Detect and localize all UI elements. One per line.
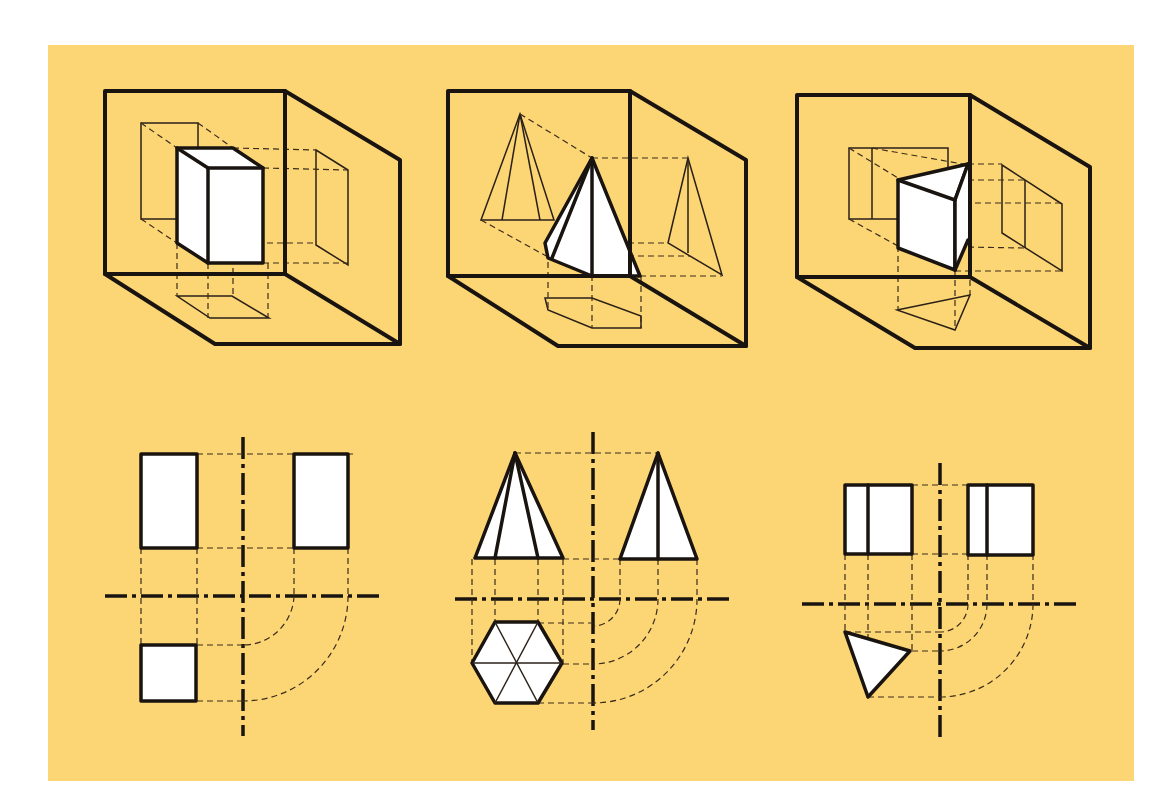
top-view-square bbox=[141, 645, 196, 701]
top-projection bbox=[545, 298, 641, 328]
floor bbox=[448, 276, 746, 346]
side-view-rect bbox=[968, 485, 1033, 555]
ortho-views-pyramid bbox=[455, 432, 733, 730]
front-view-rect bbox=[845, 485, 912, 554]
technical-drawing bbox=[0, 0, 1157, 811]
top-view-triangle bbox=[845, 632, 910, 697]
side-projection bbox=[1002, 165, 1062, 271]
front-view-rect bbox=[141, 454, 197, 548]
floor bbox=[797, 277, 1090, 348]
side-wall bbox=[970, 95, 1090, 348]
ortho-views-rect bbox=[105, 437, 383, 736]
top-projection bbox=[897, 295, 970, 330]
top-projection bbox=[177, 296, 269, 318]
side-projection bbox=[316, 150, 348, 265]
isometric-box-hex-pyramid bbox=[448, 91, 746, 346]
side-projection bbox=[668, 158, 722, 275]
side-view-rect bbox=[294, 454, 348, 548]
side-wall bbox=[285, 91, 400, 344]
rect-prism-solid bbox=[177, 148, 263, 263]
isometric-box-rect-prism bbox=[105, 91, 400, 344]
isometric-box-tri-prism bbox=[797, 95, 1090, 348]
ortho-views-tri bbox=[802, 463, 1077, 742]
